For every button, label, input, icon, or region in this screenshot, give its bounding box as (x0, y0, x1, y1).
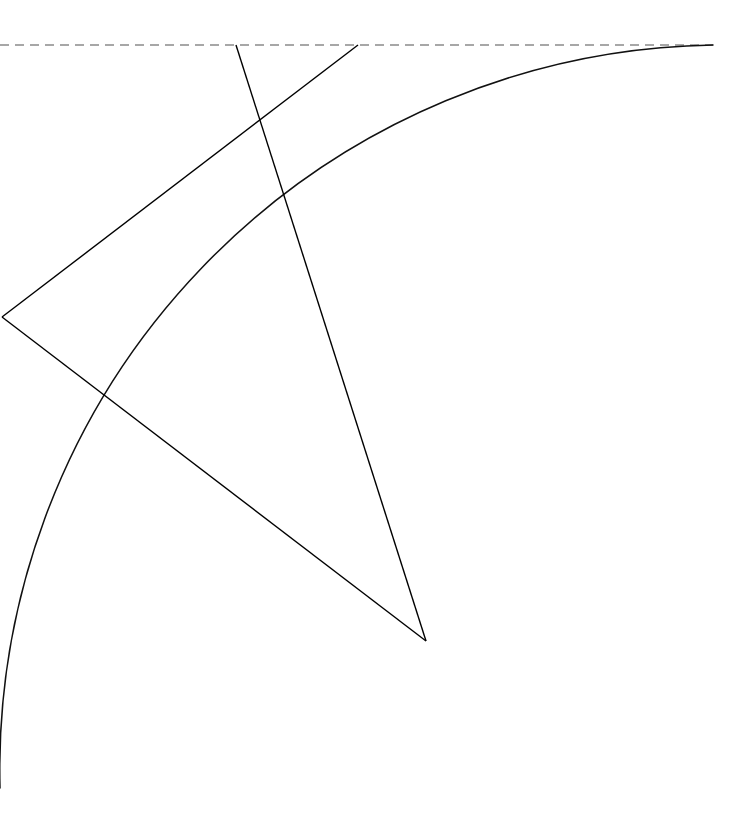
diagram-canvas (0, 0, 750, 834)
background-rect (0, 0, 750, 834)
geometry-svg (0, 0, 750, 834)
